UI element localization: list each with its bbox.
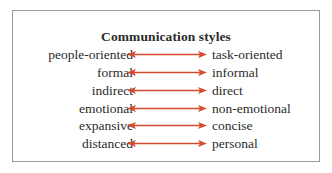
double-arrow-icon xyxy=(127,50,207,59)
left-term: emotional xyxy=(79,100,133,117)
left-term: people-oriented xyxy=(48,46,133,63)
double-arrow-icon xyxy=(127,121,207,130)
right-term: concise xyxy=(212,117,252,134)
right-term: non-emotional xyxy=(212,100,291,117)
diagram-title: Communication styles xyxy=(13,29,319,45)
style-row-people-task: people-oriented task-oriented xyxy=(13,46,321,63)
style-row-expansive-concise: expansive concise xyxy=(13,117,321,134)
style-row-indirect-direct: indirect direct xyxy=(13,82,321,99)
right-term: personal xyxy=(212,135,258,152)
double-arrow-icon xyxy=(127,139,207,148)
double-arrow-icon xyxy=(127,68,207,77)
right-term: informal xyxy=(212,64,259,81)
communication-styles-box: Communication styles people-oriented tas… xyxy=(12,10,320,162)
style-row-distanced-personal: distanced personal xyxy=(13,135,321,152)
style-row-formal-informal: formal informal xyxy=(13,64,321,81)
right-term: direct xyxy=(212,82,243,99)
style-row-emotional-nonemotional: emotional non-emotional xyxy=(13,100,321,117)
double-arrow-icon xyxy=(127,86,207,95)
left-term: distanced xyxy=(82,135,133,152)
left-term: expansive xyxy=(79,117,133,134)
right-term: task-oriented xyxy=(212,46,282,63)
double-arrow-icon xyxy=(127,104,207,113)
